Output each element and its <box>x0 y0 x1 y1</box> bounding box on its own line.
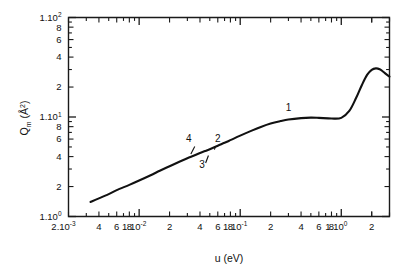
x-tick-label: 4 <box>298 221 303 232</box>
y-tick-label: 4 <box>56 51 61 62</box>
curve-label-3: 3 <box>199 159 205 170</box>
y-tick-label: 2 <box>56 81 61 92</box>
y-tick-label: 2 <box>56 181 61 192</box>
x-tick-label: 6 <box>316 221 321 232</box>
y-tick-label: 8 <box>56 121 61 132</box>
x-axis-title: u (eV) <box>215 252 244 264</box>
figure-container: 2.10-34681.10-224681.10-124681.1002 1.10… <box>0 0 416 278</box>
x-tick-label: 4 <box>96 221 101 232</box>
x-tick-label: 6 <box>114 221 119 232</box>
figure-background <box>0 0 416 278</box>
curve-label-1: 1 <box>286 102 292 113</box>
cross-section-log-log-plot: 2.10-34681.10-224681.10-124681.1002 1.10… <box>0 0 416 278</box>
y-tick-label: 6 <box>56 34 61 45</box>
x-tick-label: 2 <box>369 221 374 232</box>
y-tick-label: 4 <box>56 151 61 162</box>
x-tick-label: 4 <box>197 221 202 232</box>
x-tick-label: 2 <box>167 221 172 232</box>
x-tick-label: 6 <box>215 221 220 232</box>
y-tick-label: 8 <box>56 22 61 33</box>
curve-label-2: 2 <box>215 133 221 144</box>
x-tick-label: 2 <box>268 221 273 232</box>
curve-label-4: 4 <box>186 133 192 144</box>
y-tick-label: 6 <box>56 133 61 144</box>
